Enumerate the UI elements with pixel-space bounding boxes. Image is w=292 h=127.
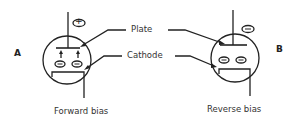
tube-b-caption: Reverse bias [207, 104, 261, 114]
tube-a-side-label: A [14, 48, 21, 58]
plate-leader-lines [80, 30, 225, 47]
tube-a-electron-flow-arrows [59, 50, 80, 58]
tube-a-plus-sign: + [75, 16, 83, 26]
tube-a-caption: Forward bias [54, 106, 108, 116]
tube-a-cathode [52, 72, 84, 98]
tube-b [211, 10, 259, 96]
cathode-label: Cathode [127, 50, 163, 60]
tube-b-side-label: B [276, 44, 283, 54]
tube-a [43, 12, 91, 98]
plate-label: Plate [131, 24, 152, 34]
